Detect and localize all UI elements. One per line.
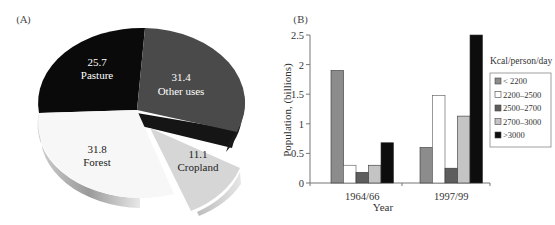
other-uses-value: 31.4 [171, 71, 191, 83]
forest-label: Forest [83, 156, 111, 168]
other-uses-label: Other uses [158, 85, 205, 97]
legend-label: 2700–3000 [503, 117, 541, 127]
y-tick-label: 2.5 [291, 30, 304, 41]
legend-label: < 2200 [503, 76, 527, 86]
forest-value: 31.8 [87, 143, 107, 155]
legend-swatch [495, 78, 501, 84]
cropland-label: Cropland [178, 161, 219, 173]
bar-1964-66-4 [381, 143, 394, 183]
pasture-value: 25.7 [87, 56, 107, 68]
bar-1964-66-1 [344, 165, 357, 183]
bar-1997-99-4 [470, 35, 483, 183]
x-ticks: 1964/661997/99 [310, 183, 490, 202]
bar-1997-99-3 [458, 116, 471, 183]
pasture-label: Pasture [81, 69, 114, 81]
legend-swatch [495, 119, 501, 125]
legend-label: 2500–2700 [503, 103, 541, 113]
land-use-pie-chart: 25.7 Pasture 31.4 Other uses 31.8 Forest… [0, 0, 280, 225]
bar-1964-66-0 [331, 71, 344, 183]
legend-swatch [495, 105, 501, 111]
y-tick-label: 1 [299, 119, 304, 130]
x-tick-label: 1997/99 [434, 191, 468, 202]
legend-swatch [495, 92, 501, 98]
legend-label: 2200–2500 [503, 90, 541, 100]
bar-1997-99-1 [433, 95, 446, 183]
y-tick-label: 0 [299, 178, 304, 189]
legend-title: Kcal/person/day [490, 56, 553, 66]
x-axis-title: Year [373, 201, 394, 213]
legend-swatch [495, 132, 501, 138]
pie-svg: 25.7 Pasture 31.4 Other uses 31.8 Forest… [0, 0, 280, 225]
y-axis-title: Population, (billions) [281, 63, 294, 157]
legend-label: >3000 [503, 130, 525, 140]
bar-1964-66-3 [369, 165, 382, 183]
bars [331, 35, 483, 183]
bar-1997-99-0 [420, 147, 433, 183]
population-bar-chart: 00.511.522.5 1964/661997/99 Population, … [280, 0, 555, 225]
y-tick-label: 2 [299, 60, 304, 71]
bar-svg: 00.511.522.5 1964/661997/99 Population, … [280, 0, 555, 225]
cropland-value: 11.1 [189, 148, 208, 160]
y-ticks: 00.511.522.5 [291, 30, 310, 189]
bar-1964-66-2 [356, 172, 369, 183]
bar-1997-99-2 [445, 168, 458, 183]
